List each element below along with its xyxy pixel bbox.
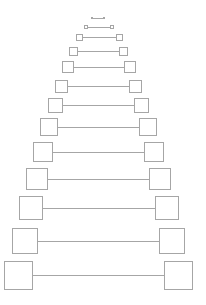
right-square-node [124,61,136,73]
right-square-node [134,98,149,113]
connector-line [68,86,129,87]
left-square-node [91,17,93,19]
right-square-node [119,47,128,56]
connector-line [93,18,103,19]
connector-line [48,179,149,180]
left-square-node [26,168,48,190]
right-square-node [116,34,123,41]
right-square-node [103,17,105,19]
left-square-node [19,196,43,220]
left-square-node [62,61,74,73]
left-square-node [55,80,68,93]
connector-line [63,105,134,106]
left-square-node [84,25,88,29]
connector-line [33,275,164,276]
left-square-node [40,118,58,136]
right-square-node [139,118,157,136]
left-square-node [4,261,33,290]
dumbbell-pyramid-diagram [0,0,206,305]
connector-line [53,152,144,153]
right-square-node [155,196,179,220]
connector-line [78,51,119,52]
connector-line [43,208,155,209]
right-square-node [110,25,114,29]
left-square-node [12,228,38,254]
left-square-node [48,98,63,113]
right-square-node [129,80,142,93]
connector-line [38,241,159,242]
connector-line [74,67,124,68]
right-square-node [149,168,171,190]
left-square-node [69,47,78,56]
left-square-node [76,34,83,41]
right-square-node [144,142,164,162]
connector-line [83,37,116,38]
left-square-node [33,142,53,162]
connector-line [88,27,110,28]
connector-line [58,127,139,128]
right-square-node [159,228,185,254]
right-square-node [164,261,193,290]
